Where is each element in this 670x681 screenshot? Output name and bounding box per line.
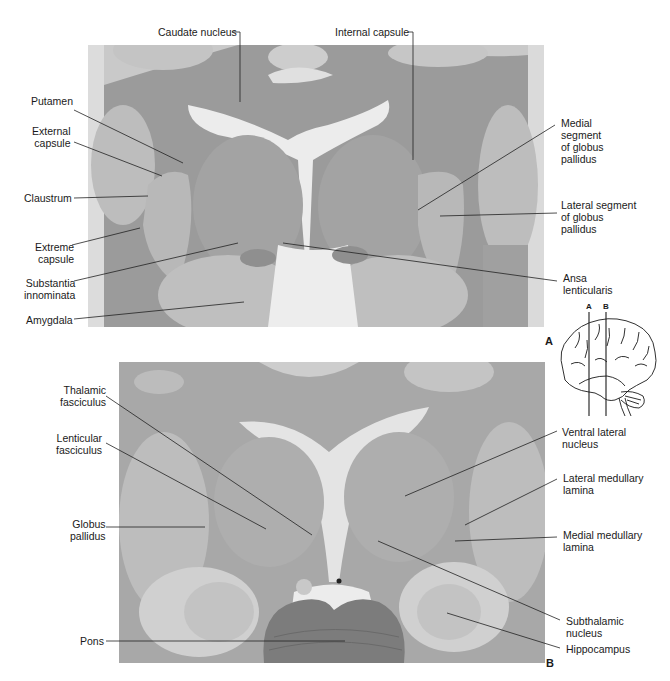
- label-hippocampus: Hippocampus: [566, 643, 630, 655]
- label-globus-pallidus: Globus pallidus: [70, 518, 106, 542]
- label-pons: Pons: [80, 635, 104, 647]
- label-lateral-segment-globus-pallidus: Lateral segment of globus pallidus: [561, 199, 636, 235]
- label-substantia-innominata: Substantia innominata: [24, 277, 75, 301]
- label-thalamic-fasciculus: Thalamic fasciculus: [60, 384, 106, 408]
- label-medial-segment-globus-pallidus: Medial segment of globus pallidus: [561, 117, 604, 165]
- panel-letter-b: B: [546, 657, 554, 669]
- label-medial-medullary-lamina: Medial medullary lamina: [563, 529, 642, 553]
- label-ansa-lenticularis: Ansa lenticularis: [563, 272, 613, 296]
- brain-outline-icon: [555, 300, 665, 420]
- label-putamen: Putamen: [31, 95, 73, 107]
- label-lenticular-fasciculus: Lenticular fasciculus: [56, 432, 102, 456]
- panel-letter-a: A: [545, 335, 553, 347]
- label-lateral-medullary-lamina: Lateral medullary lamina: [563, 472, 644, 496]
- label-internal-capsule: Internal capsule: [335, 26, 409, 38]
- panel-a-section-photo: [88, 45, 544, 327]
- brain-inset-diagram: A B: [555, 300, 665, 420]
- label-ventral-lateral-nucleus: Ventral lateral nucleus: [562, 426, 626, 450]
- inset-plane-label-b: B: [603, 302, 609, 311]
- panel-b-section-photo: [119, 362, 545, 663]
- inset-plane-label-a: A: [586, 302, 592, 311]
- label-claustrum: Claustrum: [24, 192, 72, 204]
- label-caudate-nucleus: Caudate nucleus: [158, 26, 237, 38]
- label-external-capsule: External capsule: [32, 125, 71, 149]
- label-extreme-capsule: Extreme capsule: [35, 241, 74, 265]
- label-amygdala: Amygdala: [26, 314, 73, 326]
- label-subthalamic-nucleus: Subthalamic nucleus: [566, 615, 624, 639]
